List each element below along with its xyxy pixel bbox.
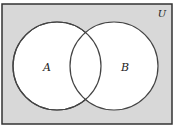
universe-label: U (158, 8, 167, 19)
venn-diagram-canvas: U A B (0, 0, 174, 138)
set-b-label: B (120, 61, 129, 74)
set-a-label: A (42, 61, 51, 74)
set-b-circle (70, 22, 158, 110)
venn-diagram: U A B (0, 0, 174, 138)
